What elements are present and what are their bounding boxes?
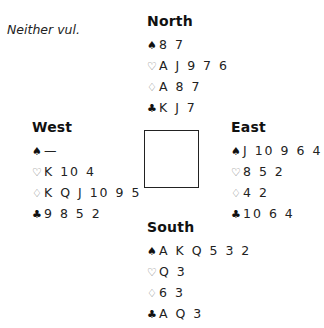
diamonds-row: ♢K Q J 10 9 5: [32, 182, 141, 203]
hearts-cards: A J 9 7 6: [159, 58, 229, 73]
heart-icon: ♡: [231, 162, 243, 183]
spade-icon: ♠: [231, 141, 243, 162]
club-icon: ♣: [147, 304, 159, 325]
diamonds-row: ♢4 2: [231, 182, 322, 203]
diamonds-row: ♢A 8 7: [147, 76, 229, 97]
spades-row: ♠8 7: [147, 34, 229, 55]
diamond-icon: ♢: [231, 183, 243, 204]
spade-icon: ♠: [147, 241, 159, 262]
hearts-row: ♡A J 9 7 6: [147, 55, 229, 76]
diamonds-cards: K Q J 10 9 5: [44, 185, 141, 200]
clubs-row: ♣9 8 5 2: [32, 203, 141, 224]
diamond-icon: ♢: [32, 183, 44, 204]
hearts-cards: Q 3: [159, 264, 187, 279]
club-icon: ♣: [32, 204, 44, 225]
spades-row: ♠A K Q 5 3 2: [147, 240, 251, 261]
north-hand: North ♠8 7 ♡A J 9 7 6 ♢A 8 7 ♣K J 7: [147, 12, 229, 118]
hearts-row: ♡8 5 2: [231, 161, 322, 182]
vulnerability-label: Neither vul.: [7, 22, 80, 37]
club-icon: ♣: [147, 98, 159, 119]
heart-icon: ♡: [147, 56, 159, 77]
spades-cards: A K Q 5 3 2: [159, 243, 251, 258]
hand-name: South: [147, 218, 251, 240]
diamond-icon: ♢: [147, 77, 159, 98]
clubs-row: ♣K J 7: [147, 97, 229, 118]
spades-row: ♠J 10 9 6 4: [231, 140, 322, 161]
hand-name: West: [32, 118, 141, 140]
heart-icon: ♡: [147, 262, 159, 283]
diamonds-cards: A 8 7: [159, 79, 201, 94]
diamonds-cards: 4 2: [243, 185, 269, 200]
clubs-cards: A Q 3: [159, 306, 203, 321]
clubs-cards: 9 8 5 2: [44, 206, 102, 221]
spade-icon: ♠: [147, 35, 159, 56]
spades-row: ♠—: [32, 140, 141, 161]
spades-cards: 8 7: [159, 37, 185, 52]
hand-name: East: [231, 118, 322, 140]
heart-icon: ♡: [32, 162, 44, 183]
hand-name: North: [147, 12, 229, 34]
west-hand: West ♠— ♡K 10 4 ♢K Q J 10 9 5 ♣9 8 5 2: [32, 118, 141, 224]
clubs-cards: K J 7: [159, 100, 197, 115]
hearts-cards: 8 5 2: [243, 164, 285, 179]
spades-cards: —: [44, 143, 59, 158]
spades-cards: J 10 9 6 4: [243, 143, 322, 158]
table-diagram-box: [144, 130, 199, 188]
diamonds-row: ♢6 3: [147, 282, 251, 303]
hearts-cards: K 10 4: [44, 164, 96, 179]
diamond-icon: ♢: [147, 283, 159, 304]
clubs-row: ♣A Q 3: [147, 303, 251, 324]
diamonds-cards: 6 3: [159, 285, 185, 300]
south-hand: South ♠A K Q 5 3 2 ♡Q 3 ♢6 3 ♣A Q 3: [147, 218, 251, 324]
spade-icon: ♠: [32, 141, 44, 162]
hearts-row: ♡Q 3: [147, 261, 251, 282]
east-hand: East ♠J 10 9 6 4 ♡8 5 2 ♢4 2 ♣10 6 4: [231, 118, 322, 224]
hearts-row: ♡K 10 4: [32, 161, 141, 182]
